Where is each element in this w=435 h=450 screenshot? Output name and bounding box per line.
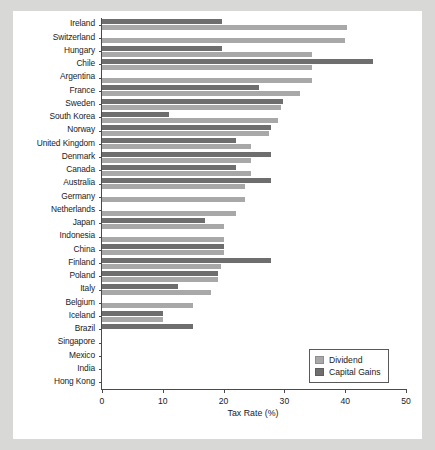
bar-dividend — [102, 224, 224, 229]
x-axis-tick-label: 30 — [267, 396, 301, 406]
y-axis-tick — [99, 184, 103, 185]
y-axis-tick — [99, 144, 103, 145]
legend-label-capital-gains: Capital Gains — [329, 367, 381, 377]
category-label-belgium: Belgium — [11, 298, 95, 307]
bar-capital-gains — [102, 311, 163, 316]
category-label-france: France — [11, 86, 95, 95]
bar-capital-gains — [102, 324, 193, 329]
bar-capital-gains — [102, 46, 222, 51]
y-axis-tick — [99, 157, 103, 158]
y-axis-tick — [99, 303, 103, 304]
bar-dividend — [102, 303, 193, 308]
bar-dividend — [102, 38, 345, 43]
category-axis-labels: IrelandSwitzerlandHungaryChileArgentinaF… — [13, 18, 99, 389]
category-label-denmark: Denmark — [11, 152, 95, 161]
category-label-united-kingdom: United Kingdom — [11, 139, 95, 148]
category-label-chile: Chile — [11, 59, 95, 68]
bar-dividend — [102, 144, 251, 149]
bar-dividend — [102, 171, 251, 176]
bar-capital-gains — [102, 112, 169, 117]
category-label-australia: Australia — [11, 178, 95, 187]
x-axis-tick-label: 10 — [146, 396, 180, 406]
bars-layer — [102, 18, 406, 389]
legend-item-dividend: Dividend — [315, 354, 381, 366]
y-axis-tick — [99, 91, 103, 92]
category-label-iceland: Iceland — [11, 311, 95, 320]
y-axis-tick — [99, 197, 103, 198]
y-axis-tick — [99, 131, 103, 132]
plot-frame: 01020304050 — [101, 18, 406, 390]
bar-dividend — [102, 52, 312, 57]
category-label-netherlands: Netherlands — [11, 205, 95, 214]
category-label-mexico: Mexico — [11, 351, 95, 360]
y-axis-tick — [99, 316, 103, 317]
bar-dividend — [102, 277, 218, 282]
x-axis-tick-label: 20 — [207, 396, 241, 406]
y-axis-tick — [99, 223, 103, 224]
y-axis-tick — [99, 369, 103, 370]
category-label-south-korea: South Korea — [11, 112, 95, 121]
category-label-indonesia: Indonesia — [11, 231, 95, 240]
category-label-poland: Poland — [11, 271, 95, 280]
y-axis-tick — [99, 263, 103, 264]
y-axis-tick — [99, 343, 103, 344]
legend-label-dividend: Dividend — [329, 355, 362, 365]
bar-capital-gains — [102, 152, 271, 157]
y-axis-tick — [99, 38, 103, 39]
category-label-india: India — [11, 364, 95, 373]
bar-capital-gains — [102, 258, 271, 263]
x-axis-tick — [345, 389, 346, 393]
bar-capital-gains — [102, 178, 271, 183]
bar-dividend — [102, 78, 312, 83]
category-label-finland: Finland — [11, 258, 95, 267]
y-axis-tick — [99, 276, 103, 277]
x-axis-tick-label: 0 — [85, 396, 119, 406]
legend-swatch-capital-gains — [315, 368, 324, 376]
y-axis-tick — [99, 329, 103, 330]
x-axis-tick-label: 50 — [389, 396, 423, 406]
bar-capital-gains — [102, 165, 236, 170]
y-axis-tick — [99, 290, 103, 291]
bar-dividend — [102, 184, 245, 189]
category-label-canada: Canada — [11, 165, 95, 174]
bar-capital-gains — [102, 271, 218, 276]
x-axis-tick — [163, 389, 164, 393]
y-axis-tick — [99, 64, 103, 65]
x-axis-tick — [406, 389, 407, 393]
y-axis-tick — [99, 382, 103, 383]
x-axis-tick — [102, 389, 103, 393]
category-label-hungary: Hungary — [11, 46, 95, 55]
bar-capital-gains — [102, 218, 205, 223]
x-axis-tick — [224, 389, 225, 393]
category-label-germany: Germany — [11, 192, 95, 201]
bar-capital-gains — [102, 19, 222, 24]
legend-swatch-dividend — [315, 356, 324, 364]
bar-dividend — [102, 211, 236, 216]
category-label-hong-kong: Hong Kong — [11, 377, 95, 386]
category-label-argentina: Argentina — [11, 72, 95, 81]
bar-dividend — [102, 105, 281, 110]
y-axis-tick — [99, 104, 103, 105]
y-axis-tick — [99, 210, 103, 211]
y-axis-tick — [99, 250, 103, 251]
x-axis-tick — [284, 389, 285, 393]
legend-item-capital-gains: Capital Gains — [315, 366, 381, 378]
category-label-singapore: Singapore — [11, 337, 95, 346]
x-axis-title: Tax Rate (%) — [101, 408, 405, 418]
x-axis-tick-label: 40 — [328, 396, 362, 406]
category-label-norway: Norway — [11, 125, 95, 134]
bar-dividend — [102, 118, 278, 123]
y-axis-tick — [99, 356, 103, 357]
bar-capital-gains — [102, 284, 178, 289]
bar-dividend — [102, 290, 211, 295]
category-label-china: China — [11, 245, 95, 254]
y-axis-tick — [99, 78, 103, 79]
bar-capital-gains — [102, 138, 236, 143]
bar-dividend — [102, 250, 224, 255]
chart-card: IrelandSwitzerlandHungaryChileArgentinaF… — [13, 11, 422, 439]
y-axis-tick — [99, 237, 103, 238]
bar-capital-gains — [102, 59, 373, 64]
y-axis-tick — [99, 25, 103, 26]
bar-capital-gains — [102, 125, 271, 130]
bar-dividend — [102, 25, 347, 30]
